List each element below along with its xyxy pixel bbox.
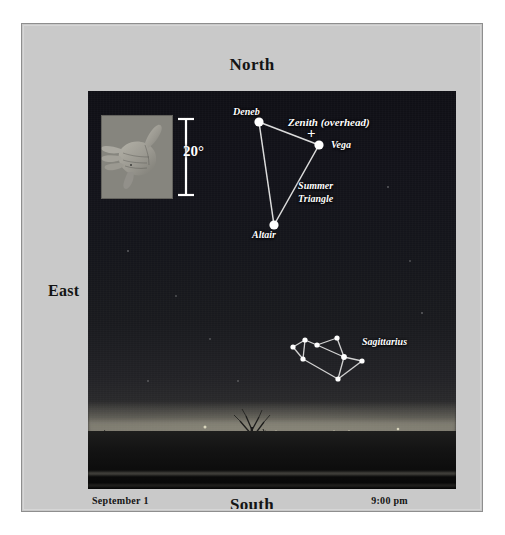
star-vega — [314, 140, 323, 149]
summer-triangle-label-line2: Triangle — [298, 192, 333, 205]
zenith-cross-marker: + — [307, 126, 316, 141]
star-label-altair: Altair — [252, 229, 276, 240]
time-label: 9:00 pm — [371, 495, 408, 506]
star-label-deneb: Deneb — [233, 106, 260, 117]
chart-panel: North South East West September 1 9:00 p… — [21, 23, 483, 512]
zenith-label: Zenith (overhead) — [288, 116, 370, 128]
constellation-overlay — [88, 91, 456, 489]
background-stars — [127, 186, 423, 381]
compass-label-south: South — [22, 495, 482, 515]
compass-label-north: North — [22, 55, 482, 75]
star-chart-figure: North South East West September 1 9:00 p… — [0, 0, 505, 535]
summer-triangle-label-line1: Summer — [298, 179, 333, 192]
asterism-label-summer-triangle: Summer Triangle — [298, 179, 333, 205]
star-deneb — [254, 117, 263, 126]
date-label: September 1 — [92, 495, 149, 506]
star-label-vega: Vega — [331, 139, 351, 150]
sky-photograph: 20° — [88, 91, 456, 489]
constellation-label-sagittarius: Sagittarius — [362, 336, 407, 347]
compass-label-east: East — [48, 282, 79, 300]
